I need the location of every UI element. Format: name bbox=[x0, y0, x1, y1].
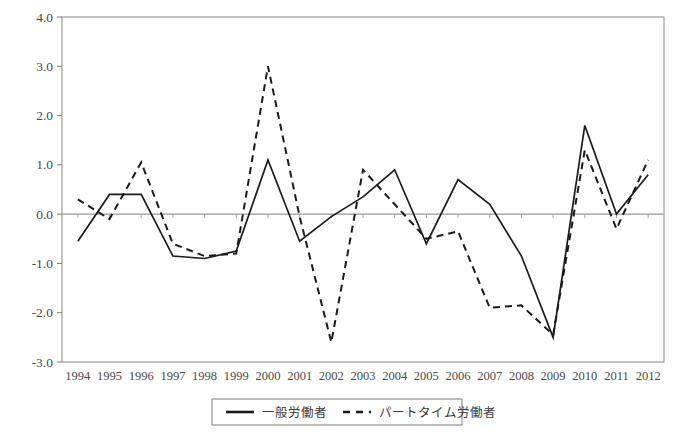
x-tick-label: 2002 bbox=[319, 369, 344, 383]
x-tick-label: 2011 bbox=[604, 369, 629, 383]
y-tick-label: -1.0 bbox=[32, 256, 54, 271]
x-tick-label: 1997 bbox=[160, 369, 185, 383]
x-tick-label: 2008 bbox=[509, 369, 534, 383]
y-tick-label: 2.0 bbox=[36, 108, 53, 123]
y-tick-label: 1.0 bbox=[36, 157, 53, 172]
legend-label-1: 一般労働者 bbox=[262, 405, 327, 420]
x-tick-label: 2003 bbox=[351, 369, 376, 383]
x-tick-label: 1999 bbox=[224, 369, 249, 383]
x-tick-label: 2006 bbox=[446, 369, 471, 383]
x-tick-label: 1994 bbox=[65, 369, 91, 383]
y-tick-label: 0.0 bbox=[36, 207, 53, 222]
line-chart: -3.0-2.0-1.00.01.02.03.04.0 199419951996… bbox=[0, 0, 674, 435]
x-tick-label: 1996 bbox=[129, 369, 154, 383]
y-axis-tick-marks bbox=[57, 17, 62, 362]
x-tick-label: 2004 bbox=[382, 369, 408, 383]
x-axis-tick-labels: 1994199519961997199819992000200120022003… bbox=[65, 369, 660, 383]
chart-container: -3.0-2.0-1.00.01.02.03.04.0 199419951996… bbox=[0, 0, 674, 435]
y-tick-label: 4.0 bbox=[36, 10, 53, 25]
x-tick-label: 2000 bbox=[255, 369, 280, 383]
x-tick-label: 2001 bbox=[287, 369, 312, 383]
y-tick-label: -3.0 bbox=[32, 355, 54, 370]
y-tick-label: -2.0 bbox=[32, 305, 54, 320]
x-tick-label: 2007 bbox=[477, 369, 502, 383]
x-tick-label: 1995 bbox=[97, 369, 122, 383]
legend-label-2: パートタイム労働者 bbox=[379, 406, 496, 420]
chart-legend: 一般労働者パートタイム労働者 bbox=[212, 399, 496, 425]
plot-area-border bbox=[62, 17, 664, 362]
y-tick-label: 3.0 bbox=[36, 59, 53, 74]
y-axis-tick-labels: -3.0-2.0-1.00.01.02.03.04.0 bbox=[32, 10, 54, 370]
x-tick-label: 2005 bbox=[414, 369, 439, 383]
x-tick-label: 2009 bbox=[541, 369, 566, 383]
x-tick-label: 1998 bbox=[192, 369, 217, 383]
plot-frame bbox=[62, 17, 664, 362]
x-tick-label: 2010 bbox=[572, 369, 597, 383]
x-tick-label: 2012 bbox=[636, 369, 661, 383]
